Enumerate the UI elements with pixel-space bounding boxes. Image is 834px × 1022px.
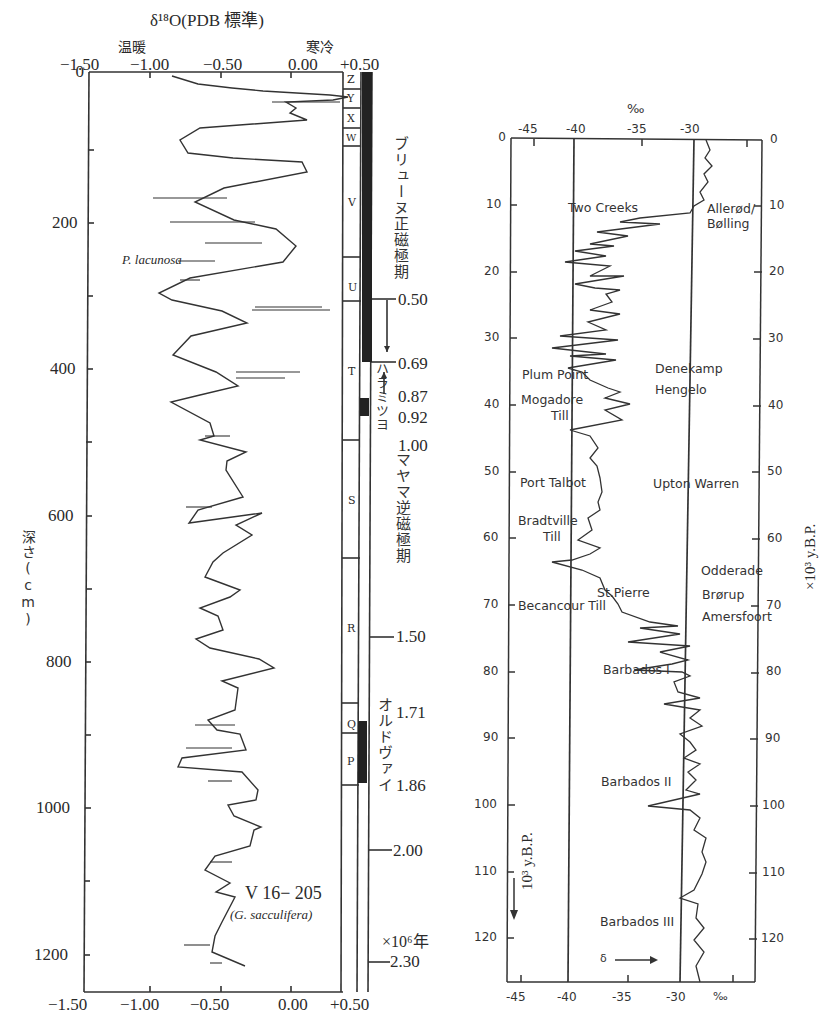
y-tick-left: 30 xyxy=(484,330,499,344)
label-brorup: Brørup xyxy=(702,587,744,602)
chart-graphics xyxy=(0,0,834,1022)
label-amersfoort: Amersfoort xyxy=(702,609,772,624)
label-bradtville: Bradtville xyxy=(518,513,578,528)
label-allerod: Allerød/ xyxy=(707,201,755,216)
x-tick-top: -30 xyxy=(680,122,700,136)
label-mogadore: Mogadore xyxy=(521,392,583,407)
label-denekamp: Denekamp xyxy=(655,361,723,376)
permil-bottom-label: ‰ xyxy=(713,990,728,1003)
y-tick-left: 100 xyxy=(474,797,497,811)
y-tick-right: 0 xyxy=(770,132,778,146)
y-tick-right: 90 xyxy=(765,731,780,745)
label-upton-warren: Upton Warren xyxy=(653,476,739,491)
y-tick-left: 60 xyxy=(483,530,498,544)
x-tick-bottom: -45 xyxy=(506,990,526,1004)
delta-label: δ xyxy=(600,952,607,965)
y-tick-right: 50 xyxy=(767,464,782,478)
y-tick-left: 10 xyxy=(486,197,501,211)
x-tick-top: -45 xyxy=(518,122,538,136)
x-tick-bottom: -35 xyxy=(612,990,632,1004)
y-tick-right: 100 xyxy=(762,798,785,812)
y-tick-right: 120 xyxy=(761,931,784,945)
label-hengelo: Hengelo xyxy=(655,382,707,397)
x-tick-bottom: -40 xyxy=(557,990,577,1004)
y-tick-left: 20 xyxy=(484,264,499,278)
permil-top-label: ‰ xyxy=(627,101,644,116)
y-tick-left: 50 xyxy=(484,464,499,478)
x-tick-top: -35 xyxy=(627,122,647,136)
y-tick-left: 40 xyxy=(484,397,499,411)
y-tick-left: 90 xyxy=(483,730,498,744)
x-tick-bottom: -30 xyxy=(666,990,686,1004)
y-tick-left: 120 xyxy=(474,930,497,944)
label-barbados-3: Barbados III xyxy=(600,914,674,929)
y-axis-label-right: ×10³ y.B.P. xyxy=(802,524,819,590)
y-tick-right: 10 xyxy=(769,198,784,212)
label-till-mogadore: Till xyxy=(551,408,569,423)
label-bolling: Bølling xyxy=(707,216,750,231)
y-tick-left: 70 xyxy=(483,597,498,611)
y-tick-left: 0 xyxy=(494,130,506,144)
label-odderade: Odderade xyxy=(701,563,763,578)
label-port-talbot: Port Talbot xyxy=(520,475,586,490)
label-barbados-2: Barbados II xyxy=(601,774,671,789)
label-two-creeks: Two Creeks xyxy=(568,200,638,215)
y-tick-right: 80 xyxy=(766,664,781,678)
y-tick-right: 110 xyxy=(762,865,785,879)
y-tick-left: 80 xyxy=(483,664,498,678)
y-tick-right: 20 xyxy=(769,264,784,278)
label-till-bradtville: Till xyxy=(543,529,561,544)
label-plum-point: Plum Point xyxy=(522,367,588,382)
label-barbados-1: Barbados I xyxy=(603,662,670,677)
y-tick-left: 110 xyxy=(474,864,497,878)
label-becancour-till: Becancour Till xyxy=(518,598,606,613)
y-axis-label-left: 10³ y.B.P. xyxy=(519,832,536,890)
y-tick-right: 40 xyxy=(768,398,783,412)
y-tick-right: 30 xyxy=(768,331,783,345)
x-tick-top: -40 xyxy=(566,122,586,136)
y-tick-right: 60 xyxy=(767,531,782,545)
